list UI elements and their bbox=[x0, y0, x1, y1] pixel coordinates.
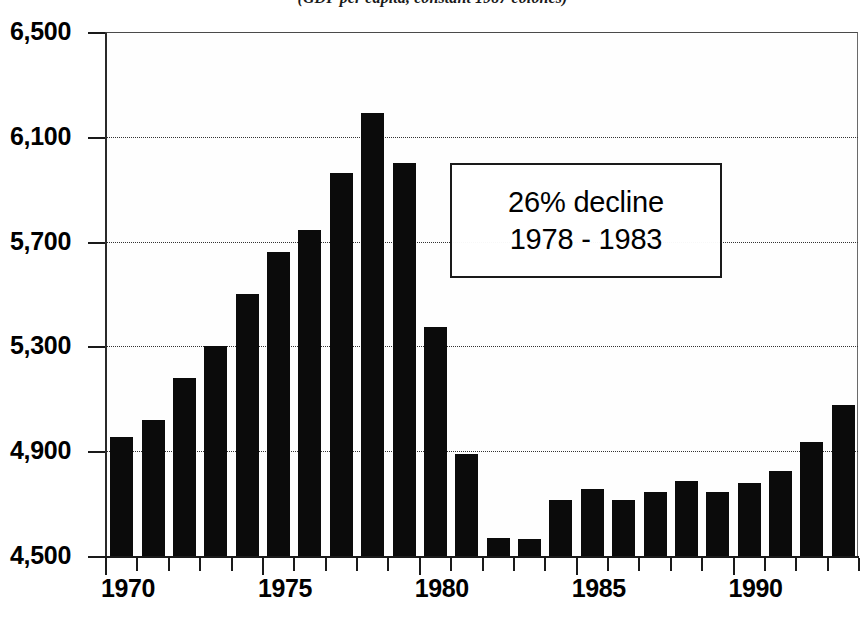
y-tick-label-4900: 4,900 bbox=[0, 438, 71, 463]
bar-1992 bbox=[800, 442, 823, 556]
y-tick-label-5300: 5,300 bbox=[0, 333, 71, 358]
y-tick-label-4500: 4,500 bbox=[0, 543, 71, 568]
bar-1985 bbox=[581, 489, 604, 556]
x-tick-mark-1970 bbox=[105, 558, 107, 575]
x-tick-mark-1984 bbox=[544, 558, 546, 571]
x-tick-mark-1976 bbox=[293, 558, 295, 571]
bar-1980 bbox=[424, 327, 447, 556]
bar-1973 bbox=[204, 346, 227, 556]
bar-1979 bbox=[393, 163, 416, 556]
y-tick-mark-4500 bbox=[88, 556, 105, 558]
x-tick-mark-1988 bbox=[670, 558, 672, 571]
x-tick-mark-1986 bbox=[607, 558, 609, 571]
x-tick-label-1985: 1985 bbox=[572, 574, 626, 603]
y-tick-mark-6500 bbox=[88, 32, 105, 34]
y-tick-label-6500: 6,500 bbox=[0, 19, 71, 44]
x-tick-mark-1972 bbox=[168, 558, 170, 571]
x-tick-mark-1985 bbox=[576, 558, 578, 575]
x-tick-mark-1987 bbox=[638, 558, 640, 571]
x-tick-mark-1983 bbox=[513, 558, 515, 571]
x-tick-mark-1990 bbox=[733, 558, 735, 575]
callout-line-1: 26% decline bbox=[508, 185, 664, 219]
bar-1981 bbox=[455, 454, 478, 556]
x-tick-mark-1982 bbox=[482, 558, 484, 571]
bar-1989 bbox=[706, 492, 729, 556]
chart-title: (GDP per capita, constant 1987 colones) bbox=[0, 0, 865, 7]
axis-baseline bbox=[105, 556, 859, 558]
x-tick-mark-1991 bbox=[764, 558, 766, 571]
x-tick-mark-1971 bbox=[136, 558, 138, 571]
bar-1987 bbox=[644, 492, 667, 556]
bar-1971 bbox=[142, 420, 165, 556]
bar-1988 bbox=[675, 481, 698, 556]
x-tick-label-1970: 1970 bbox=[101, 574, 155, 603]
bars-group bbox=[105, 32, 858, 556]
x-tick-mark-1992 bbox=[795, 558, 797, 571]
x-tick-mark-1989 bbox=[701, 558, 703, 571]
x-tick-mark-1977 bbox=[325, 558, 327, 571]
bar-1975 bbox=[267, 252, 290, 556]
x-tick-mark-1981 bbox=[450, 558, 452, 571]
bar-1991 bbox=[769, 471, 792, 556]
x-tick-mark-1978 bbox=[356, 558, 358, 571]
bar-1970 bbox=[110, 437, 133, 556]
bar-1974 bbox=[236, 294, 259, 556]
y-tick-label-5700: 5,700 bbox=[0, 229, 71, 254]
bar-1986 bbox=[612, 500, 635, 556]
bar-1984 bbox=[549, 500, 572, 556]
bar-chart: (GDP per capita, constant 1987 colones) … bbox=[0, 0, 865, 623]
bar-1977 bbox=[330, 173, 353, 556]
callout-line-2: 1978 - 1983 bbox=[510, 222, 663, 256]
x-tick-mark-1973 bbox=[199, 558, 201, 571]
x-tick-label-1990: 1990 bbox=[729, 574, 783, 603]
y-tick-mark-4900 bbox=[88, 451, 105, 453]
decline-callout: 26% decline 1978 - 1983 bbox=[450, 163, 722, 278]
bar-1983 bbox=[518, 539, 541, 556]
bar-1976 bbox=[298, 230, 321, 556]
bar-1982 bbox=[487, 538, 510, 556]
x-tick-mark-1980 bbox=[419, 558, 421, 575]
y-tick-label-6100: 6,100 bbox=[0, 124, 71, 149]
y-tick-mark-5700 bbox=[88, 242, 105, 244]
bar-1990 bbox=[738, 483, 761, 556]
bar-1972 bbox=[173, 378, 196, 556]
x-tick-label-1980: 1980 bbox=[415, 574, 469, 603]
bar-1993 bbox=[832, 405, 855, 556]
x-tick-mark-1979 bbox=[387, 558, 389, 571]
x-tick-mark-1974 bbox=[231, 558, 233, 571]
x-tick-label-1975: 1975 bbox=[258, 574, 312, 603]
x-tick-mark-1975 bbox=[262, 558, 264, 575]
bar-1978 bbox=[361, 113, 384, 556]
y-tick-mark-5300 bbox=[88, 346, 105, 348]
x-tick-mark-1993 bbox=[827, 558, 829, 571]
x-tick-mark-1994 bbox=[858, 558, 860, 571]
y-tick-mark-6100 bbox=[88, 137, 105, 139]
